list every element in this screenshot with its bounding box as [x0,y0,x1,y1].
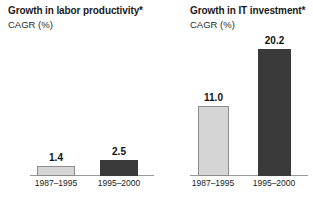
chart-title-labor-productivity: Growth in labor productivity* [8,5,143,17]
bar-value-it-1987-1995: 11.0 [194,92,233,103]
chart-title-it-investment: Growth in IT investment* [190,5,305,17]
x-axis-label-labor-1987-1995: 1987–1995 [29,178,83,188]
bar-labor-1987-1995 [37,166,75,176]
bar-it-1995-2000 [258,49,291,176]
plot-area-it-investment: 11.0 20.2 [190,33,313,176]
chart-panel-labor-productivity: Growth in labor productivity* CAGR (%) 1… [8,0,158,201]
bar-value-labor-1987-1995: 1.4 [37,152,75,163]
plot-area-labor-productivity: 1.4 2.5 [8,33,158,176]
bar-labor-1995-2000 [100,160,138,176]
chart-subtitle-it-investment: CAGR (%) [190,19,235,31]
x-axis-label-it-1995-2000: 1995–2000 [248,178,300,188]
bar-value-it-1995-2000: 20.2 [256,35,293,46]
x-axis-label-labor-1995-2000: 1995–2000 [92,178,146,188]
bar-it-1987-1995 [198,106,229,176]
x-axis-label-it-1987-1995: 1987–1995 [187,178,239,188]
bar-value-labor-1995-2000: 2.5 [100,146,138,157]
chart-subtitle-labor-productivity: CAGR (%) [8,19,53,31]
chart-panel-it-investment: Growth in IT investment* CAGR (%) 11.0 2… [190,0,313,201]
